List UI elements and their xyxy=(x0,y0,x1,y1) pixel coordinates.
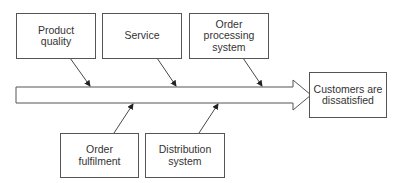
cause-product-quality: Product quality xyxy=(16,13,96,59)
cause-order-processing-system: Order processing system xyxy=(189,13,269,59)
arrow-order-processing xyxy=(243,58,262,86)
main-spine-arrow xyxy=(16,80,311,110)
arrow-service xyxy=(157,58,176,86)
cause-service: Service xyxy=(102,13,182,59)
effect-customers-dissatisfied: Customers are dissatisfied xyxy=(309,72,387,118)
cause-label: Order processing system xyxy=(204,19,255,54)
cause-label: Distribution system xyxy=(159,144,212,167)
effect-label: Customers are dissatisfied xyxy=(314,84,383,107)
cause-label: Service xyxy=(124,30,159,42)
cause-label: Product quality xyxy=(38,25,74,48)
cause-distribution-system: Distribution system xyxy=(145,133,225,178)
cause-order-fulfilment: Order fulfilment xyxy=(60,133,139,178)
arrow-product-quality xyxy=(70,58,90,86)
arrow-distribution-system xyxy=(199,104,218,133)
arrow-order-fulfilment xyxy=(114,104,133,133)
cause-label: Order fulfilment xyxy=(78,144,120,167)
